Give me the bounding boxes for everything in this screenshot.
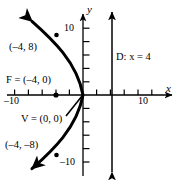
y-tick-label-negative-ten: –10 [60,157,75,167]
lower-point-marker [54,153,59,158]
y-tick-label-positive-ten: 10 [64,23,74,33]
coordinate-plot [0,0,180,182]
upper-point-label: (–4, 8) [9,42,37,53]
x-axis-label: x [166,83,171,94]
x-tick-label-positive-ten: 10 [138,96,148,106]
vertex-label: V = (0, 0) [21,114,62,125]
lower-point-label: (–4, –8) [5,140,38,151]
x-tick-label-negative-ten: –10 [4,96,19,106]
y-axis-label: y [87,4,92,15]
directrix-label: D: x = 4 [116,52,151,63]
upper-point-marker [54,33,59,38]
focus-label: F = (–4, 0) [6,75,51,86]
parabola-figure: y x –10 10 10 –10 (–4, 8) F = (–4, 0) V … [0,0,180,182]
focus-point-marker [53,92,58,97]
